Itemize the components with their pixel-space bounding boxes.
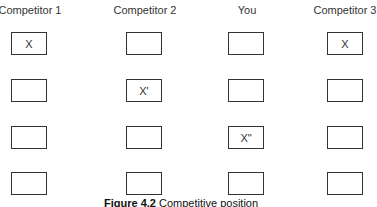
position-box: X: [327, 32, 363, 55]
position-box: [11, 79, 47, 102]
figure-title: Competitive position: [159, 197, 258, 207]
column-header-you: You: [202, 4, 292, 16]
position-box: [126, 126, 162, 149]
position-box: [11, 126, 47, 149]
position-box: [126, 172, 162, 195]
position-box: [327, 79, 363, 102]
position-box: [228, 32, 264, 55]
column-header-competitor-3: Competitor 3: [300, 4, 377, 16]
figure-number: Figure 4.2: [104, 197, 156, 207]
position-box: [327, 126, 363, 149]
position-box: [126, 32, 162, 55]
column-header-competitor-1: Competitor 1: [0, 4, 75, 16]
column-header-competitor-2: Competitor 2: [100, 4, 190, 16]
position-box: [327, 172, 363, 195]
position-box: [228, 79, 264, 102]
position-box: [228, 172, 264, 195]
position-box: X': [126, 79, 162, 102]
position-box: X": [228, 126, 264, 149]
figure-caption: Figure 4.2 Competitive position: [104, 197, 258, 207]
position-box: X: [11, 32, 47, 55]
position-box: [11, 172, 47, 195]
